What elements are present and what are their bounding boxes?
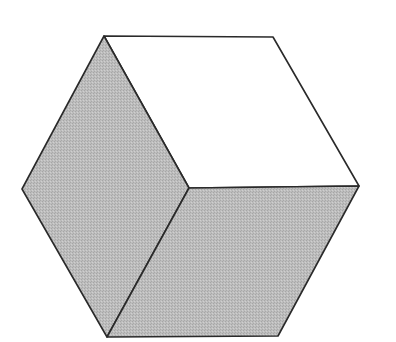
diagram-canvas — [0, 0, 396, 342]
cube-diagram — [0, 0, 396, 342]
